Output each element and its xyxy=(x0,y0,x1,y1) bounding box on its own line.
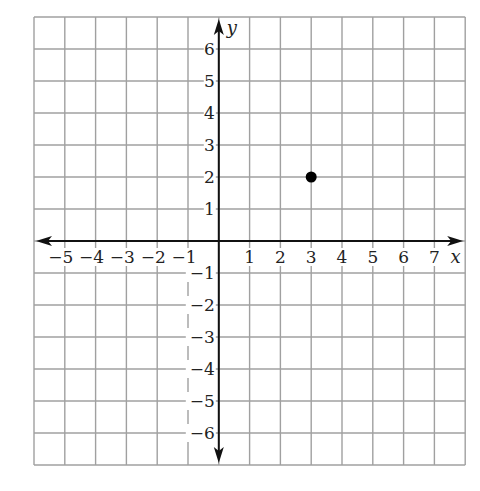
x-axis-label: x xyxy=(450,246,460,267)
y-tick-label: −5 xyxy=(190,391,215,411)
x-tick-label: 1 xyxy=(244,247,255,267)
y-tick-label: 6 xyxy=(204,39,215,59)
x-tick-label: 5 xyxy=(367,247,378,267)
x-tick-label: 3 xyxy=(306,247,317,267)
y-axis-label: y xyxy=(226,17,238,38)
x-tick-label: 6 xyxy=(398,247,409,267)
data-point xyxy=(306,172,317,183)
data-points xyxy=(306,172,317,183)
x-tick-label: −4 xyxy=(79,247,104,267)
coordinate-plane: −5−4−3−2−11234567 654321−1−2−3−4−5−6 x y xyxy=(0,0,480,491)
x-tick-label: −3 xyxy=(110,247,135,267)
x-tick-label: 2 xyxy=(275,247,286,267)
y-tick-label: 3 xyxy=(204,135,215,155)
y-tick-label: −1 xyxy=(190,263,215,283)
y-tick-label: 2 xyxy=(204,167,215,187)
x-tick-label: 7 xyxy=(429,247,440,267)
y-tick-label: 4 xyxy=(204,103,215,123)
x-tick-label: 4 xyxy=(337,247,348,267)
y-tick-label: −3 xyxy=(190,327,215,347)
x-tick-labels: −5−4−3−2−11234567 xyxy=(48,247,441,267)
y-tick-label: 1 xyxy=(204,199,215,219)
y-tick-label: 5 xyxy=(204,71,215,91)
x-tick-label: −2 xyxy=(141,247,166,267)
x-tick-label: −5 xyxy=(48,247,73,267)
y-tick-label: −6 xyxy=(190,423,215,443)
y-tick-label: −4 xyxy=(190,359,215,379)
y-tick-label: −2 xyxy=(190,295,215,315)
